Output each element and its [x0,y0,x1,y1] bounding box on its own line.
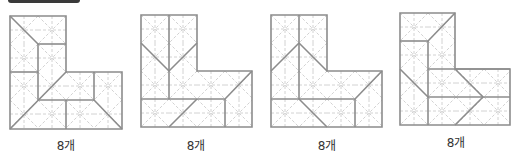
figure-1-count-label: 8개 [57,136,76,153]
guide-line [327,15,355,43]
guide-line [94,16,122,44]
guide-line [456,13,484,41]
guide-line [197,15,225,43]
guide-line [197,15,225,43]
figure-2 [141,15,253,127]
guide-line [456,13,484,41]
guide-line [66,44,94,72]
guide-line [355,15,383,43]
guide-line [66,16,94,44]
guide-line [355,43,383,71]
figure-3 [271,15,383,127]
guide-line [484,41,512,69]
figures-canvas [0,0,520,160]
guide-line [484,13,512,41]
guide-line [225,43,253,71]
guide-line [225,15,253,43]
guide-line [327,15,355,43]
guide-line [484,13,512,41]
guide-line [197,43,225,71]
guide-line [355,43,383,71]
guide-line [327,43,355,71]
guide-line [225,43,253,71]
figure-1 [10,16,122,129]
figure-3-count-label: 8개 [318,136,337,153]
guide-line [484,41,512,69]
guide-line [456,41,484,69]
guide-line [94,44,122,72]
guide-line [94,44,122,72]
guide-line [66,44,94,72]
guide-line [225,15,253,43]
figure-4 [400,13,512,125]
figure-4-count-label: 8개 [447,133,466,150]
guide-line [66,16,94,44]
guide-line [327,43,355,71]
guide-line [456,41,484,69]
guide-line [94,16,122,44]
guide-line [355,15,383,43]
figure-2-count-label: 8개 [187,136,206,153]
guide-line [197,43,225,71]
